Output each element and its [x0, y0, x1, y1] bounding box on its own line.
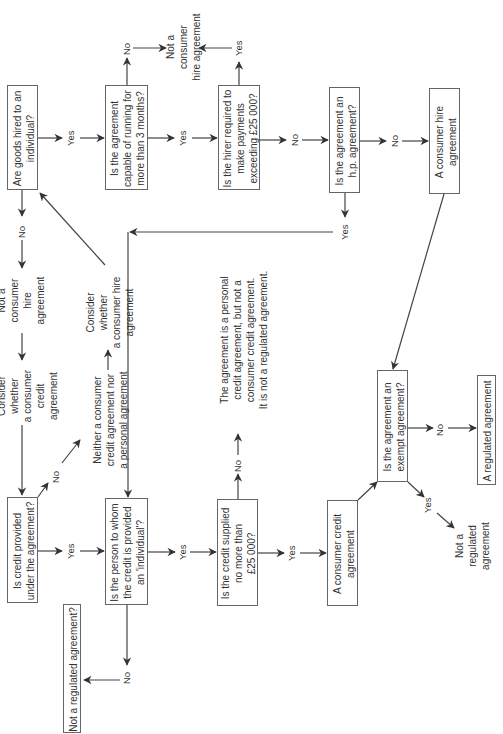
- edge-yes-hirer: Yes: [233, 41, 244, 57]
- edge-no-hirer-hp: No: [289, 134, 300, 146]
- edge-no-person: No: [121, 672, 132, 684]
- edge-no-credit-supplied: No: [232, 460, 243, 472]
- edge-yes-goods-capable: Yes: [65, 131, 76, 147]
- edge-yes-capable-hirer: Yes: [177, 131, 188, 147]
- r-consumer-credit-text: A consumer credit agreement: [328, 501, 359, 607]
- edge-yes-person-supplied: Yes: [177, 545, 188, 561]
- q-capable-running-text: Is the agreement capable of running for …: [106, 86, 149, 191]
- edge-no-capable: No: [121, 43, 132, 55]
- edge-no-hp-hire: No: [389, 135, 400, 147]
- edge-no-exempt: No: [434, 424, 445, 436]
- q-credit-supplied-text: Is the credit supplied no more than £25 …: [218, 500, 259, 607]
- r-regulated-text: A regulated agreement: [478, 376, 497, 486]
- box-capable-running: Is the agreement capable of running for …: [105, 85, 148, 190]
- not-consumer-hire-mid: Not a consumer hire agreement: [5, 268, 37, 333]
- r-not-consumer-hire-top: Not a consumer hire agreement: [168, 12, 198, 82]
- box-credit-provided: Is credit provided under the agreement?: [7, 497, 38, 603]
- q-credit-provided-text: Is credit provided under the agreement?: [8, 498, 39, 604]
- q-goods-hired-text: Are goods hired to an individual?: [8, 86, 39, 191]
- neither-text: Neither a consumer credit agreement nor …: [88, 370, 132, 470]
- box-goods-hired: Are goods hired to an individual?: [7, 85, 38, 190]
- box-regulated: A regulated agreement: [477, 375, 496, 485]
- edge-no-credit-provided: No: [50, 471, 61, 483]
- box-exempt: Is the agreement an exempt agreement?: [377, 370, 408, 482]
- q-hp-agreement-text: Is the agreement an h.p. agreement?: [330, 88, 361, 194]
- r-personal-credit: The agreement is a personal credit agree…: [215, 250, 273, 430]
- box-not-regulated-q: Not a regulated agreement?: [63, 604, 81, 733]
- r-not-regulated-exempt: Not a regulated agreement: [457, 512, 487, 580]
- box-hirer-required: Is the hirer required to make payments e…: [218, 85, 260, 190]
- edge-yes-hp: Yes: [339, 225, 350, 241]
- box-hp-agreement: Is the agreement an h.p. agreement?: [329, 87, 360, 193]
- r-not-regulated-q-text: Not a regulated agreement?: [64, 605, 82, 734]
- box-person-individual: Is the person to whom the credit is prov…: [105, 498, 148, 605]
- edge-yes-exempt: Yes: [422, 498, 433, 514]
- edge-yes-credit-person: Yes: [65, 544, 76, 560]
- edge-yes-supplied-consumer: Yes: [286, 546, 297, 562]
- box-credit-supplied: Is the credit supplied no more than £25 …: [217, 499, 258, 606]
- box-consumer-credit: A consumer credit agreement: [327, 500, 358, 606]
- consider-consumer-credit: Consider whether a consumer credit agree…: [5, 362, 49, 430]
- q-person-individual-text: Is the person to whom the credit is prov…: [106, 499, 149, 606]
- q-exempt-text: Is the agreement an exempt agreement?: [378, 371, 409, 483]
- box-consumer-hire: A consumer hire agreement: [429, 88, 460, 194]
- r-consumer-hire-text: A consumer hire agreement: [430, 89, 461, 195]
- q-hirer-required-text: Is the hirer required to make payments e…: [219, 86, 261, 191]
- consider-consumer-hire: Consider whether a consumer hire agreeme…: [88, 275, 132, 350]
- edge-no-goods: No: [16, 226, 27, 238]
